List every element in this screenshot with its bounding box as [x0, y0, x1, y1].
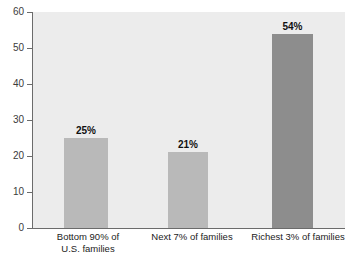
y-tick-label: 40 — [13, 79, 24, 89]
y-tick-label: 0 — [18, 223, 24, 233]
y-tick-mark — [27, 156, 32, 157]
y-tick-mark — [27, 12, 32, 13]
bar — [272, 34, 313, 228]
y-tick-mark — [27, 48, 32, 49]
bar-chart-figure: 0102030405060 25%21%54% Bottom 90% of U.… — [0, 0, 358, 255]
y-tick-label: 60 — [13, 7, 24, 17]
bar-value-label: 21% — [168, 139, 208, 150]
y-tick-mark — [27, 120, 32, 121]
y-tick-mark — [27, 228, 32, 229]
y-tick-label: 30 — [13, 115, 24, 125]
x-axis-line — [32, 228, 345, 229]
category-label: Bottom 90% of U.S. families — [40, 231, 136, 254]
category-label: Next 7% of families — [142, 231, 242, 243]
bar — [168, 152, 208, 228]
y-tick-label: 20 — [13, 151, 24, 161]
y-tick-label: 10 — [13, 187, 24, 197]
bar-value-label: 54% — [272, 21, 313, 32]
bar — [64, 138, 108, 228]
y-tick-label: 50 — [13, 43, 24, 53]
category-label: Richest 3% of families — [244, 231, 352, 243]
y-tick-mark — [27, 84, 32, 85]
y-axis-line — [32, 12, 33, 229]
y-tick-mark — [27, 192, 32, 193]
bar-value-label: 25% — [64, 125, 108, 136]
